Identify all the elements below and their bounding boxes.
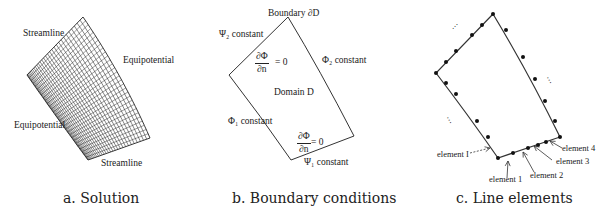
equals-zero-top: = 0 [275, 57, 287, 67]
label-psi2-constant: Ψ₂ constant [219, 30, 263, 40]
label-element-1: element 1 [489, 175, 522, 184]
caption-boundary-conditions: b. Boundary conditions [232, 190, 396, 206]
label-boundary: Boundary ∂D [268, 9, 319, 19]
label-element-2: element 2 [530, 171, 563, 180]
equals-zero-bottom: = 0 [311, 137, 323, 147]
panel-line-elements: ⋯ ⋯ ⋯ element I element 1 element 2 elem… [400, 0, 605, 216]
label-phi1-constant: Φ₁ constant [228, 117, 272, 127]
panel-solution: Streamline Equipotential Equipotential S… [0, 0, 200, 216]
label-streamline-bottom: Streamline [101, 159, 142, 169]
label-equipotential-left: Equipotential [14, 121, 65, 131]
label-psi1-constant: Ψ₁ constant [304, 158, 348, 168]
label-phi2-constant: Φ₂ constant [322, 56, 366, 66]
label-element-3: element 3 [556, 157, 589, 166]
panel-boundary-conditions: Boundary ∂D Ψ₂ constant ∂Φ ∂n = 0 Φ₂ con… [200, 0, 400, 216]
normal-derivative-bottom: ∂Φ ∂n [297, 132, 311, 154]
caption-line-elements: c. Line elements [456, 190, 573, 206]
label-equipotential-right: Equipotential [123, 56, 174, 66]
caption-solution: a. Solution [63, 190, 139, 206]
label-element-4: element 4 [562, 144, 595, 153]
label-domain: Domain D [274, 88, 314, 98]
normal-derivative-top: ∂Φ ∂n [255, 52, 269, 74]
label-streamline-top: Streamline [23, 29, 64, 39]
label-element-I: element I [437, 150, 469, 159]
